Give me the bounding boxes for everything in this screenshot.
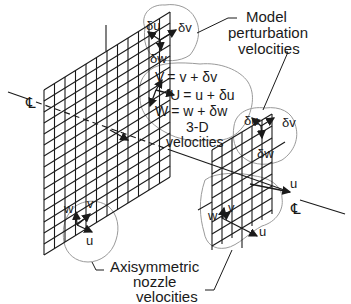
symbol-dw-top: δw [150,51,167,66]
svg-text:Model: Model [246,8,287,25]
centerline-symbol-left: ℄ [25,94,36,111]
symbol-w-right: w [207,208,218,223]
label-3d-velocities: velocities [166,134,224,150]
symbol-v-right: v [228,200,235,215]
symbol-u-right: u [259,224,266,239]
svg-text:perturbation: perturbation [228,24,308,41]
symbol-w-left: w [63,201,74,216]
equation-u: U= u + δu [170,87,235,103]
symbol-dv-top: δv [178,20,192,35]
symbol-v-left: v [87,196,94,211]
model-perturbation-label: Model perturbation velocities [228,8,308,57]
svg-text:velocities: velocities [136,288,198,304]
symbol-du-top: δu [146,18,160,33]
equation-w: W= w + δw [155,103,228,119]
symbol-dw-right: δw [257,146,274,161]
equation-v: V= v + δv [155,69,217,85]
centerline-symbol-right: ℄ [290,200,301,217]
symbol-u-left: u [86,233,93,248]
axisymmetric-label: Axisymmetric nozzle velocities [110,258,200,304]
symbol-u-centerline: u [290,176,297,191]
large-grid [44,12,170,255]
symbol-dv-right: δv [282,115,296,130]
equations: V= v + δv U= u + δu W= w + δw 3-D veloci… [155,69,235,150]
label-3d: 3-D [186,119,209,135]
symbol-du-right: δu [244,113,258,128]
diagram-canvas: ℄ ℄ δu δv δw V= v + δv U= u [0,0,351,304]
svg-text:velocities: velocities [238,40,300,57]
